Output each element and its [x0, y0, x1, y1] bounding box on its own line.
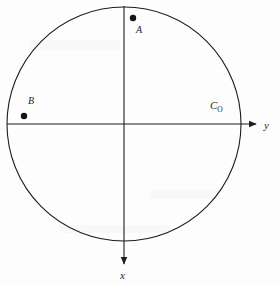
point-a-dot — [130, 15, 136, 21]
figure-canvas — [0, 0, 279, 285]
point-b-dot — [21, 113, 27, 119]
region-c0-label: CO — [210, 100, 223, 114]
region-c0-subscript: O — [217, 105, 222, 114]
point-b-label: B — [28, 96, 34, 106]
x-axis-label: x — [120, 270, 125, 281]
point-a-label: A — [136, 25, 142, 35]
y-axis-label: y — [264, 120, 269, 131]
geometry-figure: A B CO y x — [0, 0, 279, 285]
